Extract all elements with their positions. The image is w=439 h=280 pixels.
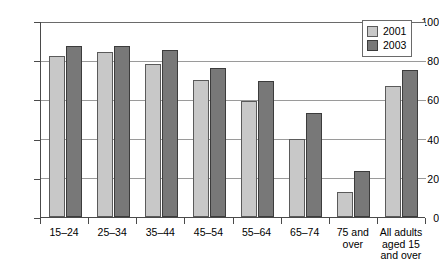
bar-2001-6 <box>337 192 353 217</box>
x-axis-tick-mark <box>281 218 282 224</box>
legend-item: 2003 <box>367 39 406 52</box>
legend-label: 2001 <box>383 26 406 37</box>
legend-swatch-2001 <box>367 26 378 37</box>
bar-2003-4 <box>258 81 274 217</box>
x-axis-tick-label: All adultsaged 15and over <box>370 227 432 262</box>
chart-legend: 20012003 <box>362 20 412 57</box>
bar-group <box>97 21 130 217</box>
legend-label: 2003 <box>383 40 406 51</box>
bar-chart: 020406080100 15–2425–3435–4445–5455–6465… <box>0 0 439 280</box>
bar-2001-5 <box>289 139 305 217</box>
bar-group <box>49 21 82 217</box>
bar-2001-7 <box>385 86 401 217</box>
bar-2003-5 <box>306 113 322 217</box>
x-axis-tick-mark <box>377 218 378 224</box>
x-axis-tick-mark <box>136 218 137 224</box>
legend-item: 2001 <box>367 25 406 38</box>
x-axis-tick-mark <box>184 218 185 224</box>
bar-2001-0 <box>49 56 65 217</box>
x-axis-tick-mark <box>233 218 234 224</box>
bar-2001-4 <box>241 101 257 217</box>
bar-2001-2 <box>145 64 161 217</box>
x-axis-tick-mark <box>88 218 89 224</box>
bar-2003-7 <box>402 70 418 217</box>
bar-2001-3 <box>193 80 209 217</box>
bar-2003-0 <box>66 46 82 217</box>
x-axis-tick-mark <box>329 218 330 224</box>
bar-group <box>241 21 274 217</box>
x-axis-tick-mark <box>425 218 426 224</box>
bar-group <box>193 21 226 217</box>
legend-swatch-2003 <box>367 40 378 51</box>
bar-2003-2 <box>162 50 178 217</box>
bar-group <box>289 21 322 217</box>
x-axis-label-line: All adults <box>370 227 432 239</box>
x-axis-tick-mark <box>40 218 41 224</box>
bar-2003-1 <box>114 46 130 218</box>
bar-group <box>145 21 178 217</box>
bar-2003-6 <box>354 171 370 217</box>
x-axis-label-line: and over <box>370 250 432 262</box>
bar-2001-1 <box>97 52 113 217</box>
bar-2003-3 <box>210 68 226 217</box>
